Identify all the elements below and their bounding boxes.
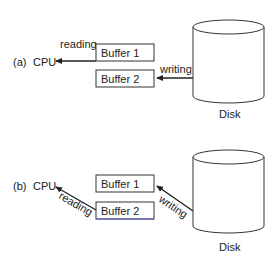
panel-a-buffer-1-label: Buffer 1: [101, 47, 139, 59]
panel-a-tag: (a): [13, 56, 26, 68]
panel-a: (a) CPU reading Buffer 1 Buffer 2 writin…: [13, 20, 264, 120]
panel-a-reading-label: reading: [60, 38, 97, 50]
panel-b-buffer-2-label: Buffer 2: [101, 205, 139, 217]
panel-a-writing-label: writing: [159, 63, 192, 75]
panel-b-disk-label: Disk: [219, 241, 241, 253]
panel-b-buffer-2: Buffer 2: [96, 202, 154, 219]
panel-b-reading-label: reading: [57, 189, 95, 218]
panel-a-buffer-1: Buffer 1: [96, 44, 154, 61]
double-buffering-diagram: (a) CPU reading Buffer 1 Buffer 2 writin…: [0, 0, 275, 262]
panel-b-buffer-1-label: Buffer 1: [101, 178, 139, 190]
panel-a-disk-label: Disk: [219, 108, 241, 120]
panel-a-buffer-2: Buffer 2: [96, 70, 154, 87]
panel-b: (b) CPU reading Buffer 1 Buffer 2 writin…: [13, 150, 264, 253]
panel-b-buffer-1: Buffer 1: [96, 175, 154, 192]
panel-b-cpu: CPU: [33, 180, 56, 192]
panel-a-cpu: CPU: [33, 56, 56, 68]
panel-a-disk-icon: [193, 20, 264, 103]
panel-a-buffer-2-label: Buffer 2: [101, 73, 139, 85]
panel-b-disk-icon: [193, 150, 264, 233]
panel-b-tag: (b): [13, 180, 26, 192]
